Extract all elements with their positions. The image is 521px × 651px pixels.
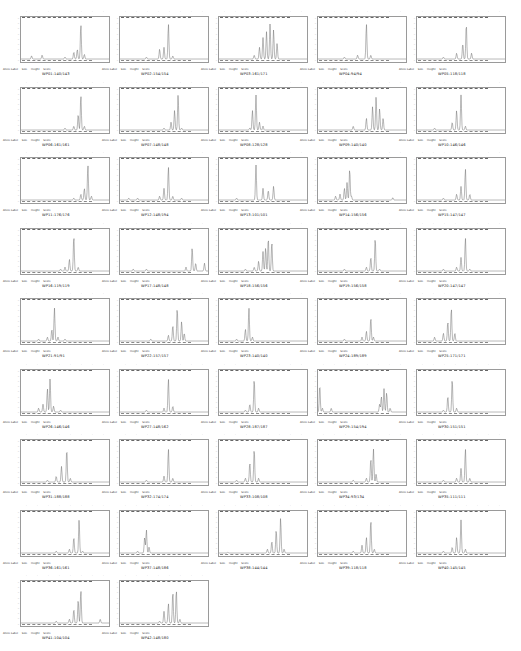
y-tick: ─ xyxy=(414,60,415,62)
x-tick: · xyxy=(92,293,93,295)
y-tick: ─ xyxy=(216,60,217,62)
y-tick: ─ xyxy=(414,522,415,524)
x-tick: · xyxy=(488,505,489,507)
y-tick: ─ xyxy=(117,451,118,453)
legend-score: Score xyxy=(43,562,50,565)
y-tick: ─ xyxy=(216,321,217,323)
legend-allele-label: Allele Label xyxy=(102,350,117,353)
y-tick: ─ xyxy=(117,477,118,479)
sample-label: WP21:91/91 xyxy=(42,354,65,358)
legend-score: Score xyxy=(241,491,248,494)
plot-frame xyxy=(119,369,209,416)
x-tick: · xyxy=(433,505,434,507)
legend-height: Height xyxy=(229,562,238,565)
y-tick: ─ xyxy=(216,256,217,258)
bin-markers-bottom xyxy=(121,272,191,274)
y-tick: ─ xyxy=(414,305,415,307)
y-tick: ─ xyxy=(414,543,415,545)
x-tick: · xyxy=(290,434,291,436)
trace-plot xyxy=(219,88,307,133)
bin-markers-bottom xyxy=(220,131,290,133)
x-tick: · xyxy=(488,152,489,154)
y-tick: ─ xyxy=(117,326,118,328)
x-tick: · xyxy=(26,364,27,366)
bin-markers-bottom xyxy=(121,60,191,62)
legend-allele-label: Allele Label xyxy=(102,562,117,565)
x-tick: · xyxy=(147,575,148,577)
x-tick: · xyxy=(389,293,390,295)
x-tick: · xyxy=(433,293,434,295)
x-tick: · xyxy=(466,152,467,154)
bin-markers-bottom xyxy=(22,413,92,415)
x-tick: · xyxy=(158,364,159,366)
x-tick: · xyxy=(466,82,467,84)
y-tick: ─ xyxy=(414,28,415,30)
plot-frame xyxy=(119,16,209,63)
electropherogram-panel: ········ ───────── Allele Label Size Hei… xyxy=(99,220,198,290)
x-tick: · xyxy=(444,11,445,13)
plot-frame xyxy=(218,16,308,63)
y-tick: ─ xyxy=(315,49,316,51)
x-tick: · xyxy=(257,293,258,295)
y-tick: ─ xyxy=(216,109,217,111)
y-tick: ─ xyxy=(117,618,118,620)
trace-plot xyxy=(21,511,109,556)
electropherogram-panel: ········ ───────── Allele Label Size Hei… xyxy=(297,502,396,572)
electropherogram-grid: ········ ───────── Allele Label Size Hei… xyxy=(0,0,521,651)
y-axis-ticks: ───────── xyxy=(301,228,316,275)
legend-allele-label: Allele Label xyxy=(3,632,18,635)
trace-plot xyxy=(318,17,406,62)
legend-score: Score xyxy=(439,280,446,283)
y-tick: ─ xyxy=(315,472,316,474)
x-tick: · xyxy=(422,152,423,154)
legend-height: Height xyxy=(31,350,40,353)
x-tick: · xyxy=(477,505,478,507)
trace-plot xyxy=(21,229,109,274)
legend-allele-label: Allele Label xyxy=(102,491,117,494)
trace-plot xyxy=(219,511,307,556)
bin-markers-top xyxy=(22,440,92,443)
y-tick: ─ xyxy=(18,587,19,589)
y-tick: ─ xyxy=(18,522,19,524)
sample-label: WP01:140/143 xyxy=(42,72,70,76)
x-tick: · xyxy=(125,575,126,577)
y-tick: ─ xyxy=(216,54,217,56)
y-tick: ─ xyxy=(18,624,19,626)
y-tick: ─ xyxy=(216,18,217,20)
bin-markers-top xyxy=(319,511,389,514)
bin-markers-bottom xyxy=(220,483,290,485)
trace-plot xyxy=(417,370,505,415)
y-tick: ─ xyxy=(414,109,415,111)
x-tick: · xyxy=(136,293,137,295)
electropherogram-panel: ········ ───────── Allele Label Size Hei… xyxy=(198,79,297,149)
bin-markers-top xyxy=(121,370,191,373)
legend-size: Size xyxy=(319,280,324,283)
electropherogram-panel: ········ ───────── Allele Label Size Hei… xyxy=(99,8,198,78)
y-tick: ─ xyxy=(117,54,118,56)
x-tick: · xyxy=(180,434,181,436)
sample-label: WP24:189/189 xyxy=(339,354,367,358)
y-axis-ticks: ───────── xyxy=(202,87,217,134)
y-tick: ─ xyxy=(18,483,19,485)
bin-markers-top xyxy=(220,370,290,373)
y-tick: ─ xyxy=(117,587,118,589)
plot-frame xyxy=(119,580,209,627)
y-tick: ─ xyxy=(18,446,19,448)
x-tick: · xyxy=(499,152,500,154)
x-tick: · xyxy=(235,11,236,13)
x-tick: · xyxy=(169,364,170,366)
y-tick: ─ xyxy=(18,543,19,545)
x-tick: · xyxy=(92,505,93,507)
x-tick: · xyxy=(257,434,258,436)
x-tick: · xyxy=(444,434,445,436)
x-tick: · xyxy=(345,505,346,507)
x-tick: · xyxy=(290,364,291,366)
x-tick: · xyxy=(180,575,181,577)
sample-label: WP38:144/144 xyxy=(240,566,268,570)
y-tick: ─ xyxy=(18,598,19,600)
y-tick: ─ xyxy=(315,371,316,373)
x-tick: · xyxy=(191,434,192,436)
y-tick: ─ xyxy=(117,245,118,247)
x-tick: · xyxy=(158,434,159,436)
y-tick: ─ xyxy=(315,271,316,273)
